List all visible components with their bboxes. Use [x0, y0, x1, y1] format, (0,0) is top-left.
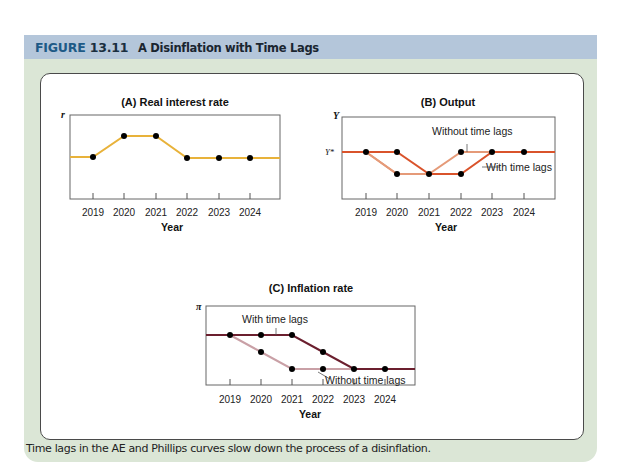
panel-a-x-label: Year — [161, 221, 183, 233]
svg-text:2020: 2020 — [250, 394, 273, 405]
svg-text:2020: 2020 — [113, 207, 136, 218]
panel-b-y-star-label: Y* — [325, 147, 335, 157]
panel-c-points — [227, 332, 388, 372]
svg-text:2019: 2019 — [355, 207, 378, 218]
panel-c-x-ticks: 2019 2020 2021 2022 2023 2024 — [219, 394, 397, 405]
svg-text:2019: 2019 — [82, 207, 105, 218]
svg-text:2024: 2024 — [513, 207, 536, 218]
svg-text:2022: 2022 — [450, 207, 473, 218]
annotation-without-time-lags-c: Without time lags — [325, 374, 406, 386]
panel-c-title: (C) Inflation rate — [269, 282, 353, 294]
svg-text:2021: 2021 — [281, 394, 304, 405]
svg-text:2024: 2024 — [374, 394, 397, 405]
inflation-without-lags-line — [230, 335, 354, 369]
panel-a-y-label: r — [61, 109, 65, 120]
svg-text:2019: 2019 — [219, 394, 242, 405]
svg-text:2023: 2023 — [208, 207, 231, 218]
panel-b-title: (B) Output — [421, 96, 476, 108]
panel-a-x-ticks: 2019 2020 2021 2022 2023 2024 — [82, 207, 262, 218]
panel-b-x-label: Year — [435, 221, 457, 233]
charts-svg: (A) Real interest rate r 2019 2020 2021 … — [0, 0, 621, 476]
svg-text:2022: 2022 — [176, 207, 199, 218]
svg-text:2023: 2023 — [481, 207, 504, 218]
svg-text:2020: 2020 — [386, 207, 409, 218]
panel-a-real-interest-rate: (A) Real interest rate r 2019 2020 2021 … — [61, 96, 280, 233]
panel-a-title: (A) Real interest rate — [121, 96, 229, 108]
panel-b-ticks — [366, 193, 524, 199]
panel-b-y-label: Y — [333, 110, 340, 121]
panel-c-x-label: Year — [299, 408, 321, 420]
svg-text:2024: 2024 — [239, 207, 262, 218]
annotation-with-time-lags: With time lags — [486, 161, 552, 173]
svg-text:2021: 2021 — [418, 207, 441, 218]
svg-text:2023: 2023 — [343, 394, 366, 405]
output-without-lags-line — [366, 152, 492, 174]
panel-c-inflation-rate: (C) Inflation rate π With time lags With… — [196, 282, 415, 420]
panel-a-ticks — [93, 193, 250, 199]
annotation-with-time-lags-c: With time lags — [242, 313, 308, 325]
real-rate-line — [70, 136, 280, 158]
svg-text:2021: 2021 — [145, 207, 168, 218]
svg-text:2022: 2022 — [312, 394, 335, 405]
panel-b-output: (B) Output Y Y* Without time lags With t… — [325, 96, 555, 233]
panel-b-x-ticks: 2019 2020 2021 2022 2023 2024 — [355, 207, 536, 218]
panel-c-y-label: π — [196, 301, 202, 312]
annotation-without-time-lags: Without time lags — [432, 125, 513, 137]
